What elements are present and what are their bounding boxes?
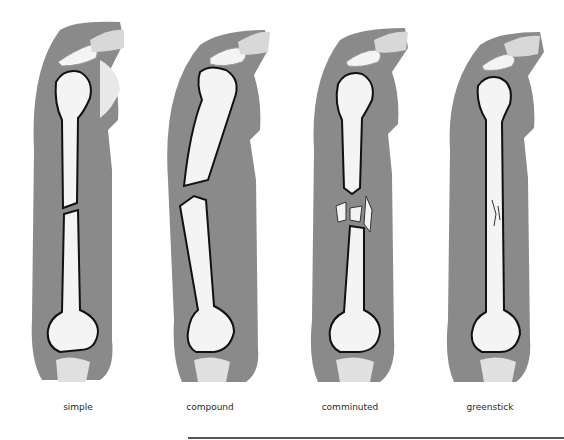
caption-greenstick: greenstick [450,402,530,412]
caption-simple: simple [48,402,108,412]
simple-fracture-illustration [20,0,150,390]
compound-fracture-illustration [150,0,300,390]
comminuted-fracture-illustration [300,0,430,390]
caption-compound: compound [170,402,250,412]
fracture-types-figure: simple compound comminuted greenstick [0,0,564,440]
caption-comminuted: comminuted [305,402,395,412]
bottom-rule [188,437,564,439]
greenstick-fracture-illustration [430,0,564,390]
